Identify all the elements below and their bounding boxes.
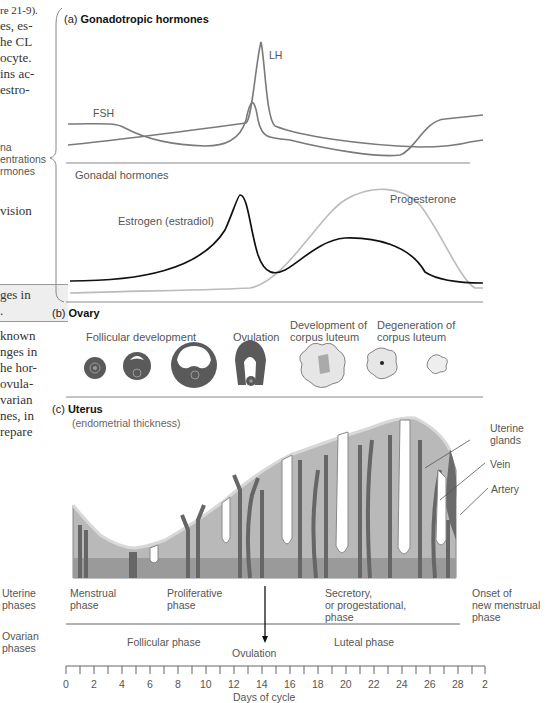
stage-label: corpus luteum — [290, 331, 359, 343]
phase-label: Luteal phase — [334, 636, 394, 648]
phase-label: phase — [70, 599, 99, 611]
tick-label: 8 — [175, 678, 181, 690]
panel-b-heading: (b) Ovary — [52, 307, 100, 319]
tick-label: 2 — [482, 678, 488, 690]
ovulation-icon — [235, 340, 266, 386]
row-label: Ovarian — [2, 630, 39, 642]
tick-label: 0 — [63, 678, 69, 690]
estrogen-curve — [70, 195, 483, 283]
phase-label: new menstrual — [472, 599, 540, 611]
panel-title: Uterus — [68, 403, 103, 415]
tick-label: 4 — [119, 678, 125, 690]
phase-label: phase — [472, 611, 501, 623]
stage-label: Degeneration of — [377, 319, 455, 331]
artery-label: Artery — [491, 483, 519, 495]
tick-label: 2 — [91, 678, 97, 690]
phase-label: Secretory, — [325, 587, 372, 599]
corpus-luteum-icon — [300, 343, 345, 387]
stage-label: Ovulation — [233, 331, 279, 343]
tick-label: 24 — [396, 678, 408, 690]
tick-label: 12 — [228, 678, 240, 690]
progesterone-label: Progesterone — [390, 193, 456, 205]
uterine-glands-label: Uterine — [490, 422, 524, 434]
panel-letter: (b) — [52, 307, 65, 319]
row-label: Uterine — [2, 587, 36, 599]
gonadal-heading: Gonadal hormones — [75, 169, 169, 181]
phase-label: phase — [325, 611, 354, 623]
panel-letter: (a) — [64, 13, 77, 25]
estrogen-label: Estrogen (estradiol) — [118, 215, 214, 227]
primary-follicle-icon — [84, 357, 106, 379]
tick-label: 22 — [368, 678, 380, 690]
panel-title: Gonadotropic hormones — [81, 13, 209, 25]
panel-a-heading: (a) Gonadotropic hormones — [64, 13, 209, 25]
phase-label: phase — [167, 599, 196, 611]
corpus-albicans-icon — [427, 355, 447, 374]
gonadal-chart — [66, 189, 483, 302]
panel-subtitle: (endometrial thickness) — [72, 417, 181, 429]
tick-label: 10 — [200, 678, 212, 690]
tick-label: 28 — [452, 678, 464, 690]
stage-label: Development of — [290, 319, 367, 331]
days-axis — [66, 666, 485, 674]
stage-label: Follicular development — [86, 331, 196, 343]
tick-label: 6 — [147, 678, 153, 690]
mature-follicle-icon — [171, 342, 217, 388]
lh-label: LH — [269, 49, 282, 61]
phase-label: or progestational, — [325, 599, 406, 611]
panel-c-heading: (c) Uterus — [52, 403, 103, 415]
phase-label: Onset of — [472, 587, 512, 599]
uterine-glands-label: glands — [490, 434, 521, 446]
panel-title: Ovary — [69, 307, 100, 319]
ovary-stages — [66, 340, 483, 397]
x-axis-title: Days of cycle — [233, 691, 295, 703]
endometrium-illustration — [73, 418, 488, 578]
fsh-label: FSH — [93, 107, 114, 119]
row-label: phases — [2, 642, 36, 654]
tick-label: 26 — [424, 678, 436, 690]
degenerating-corpus-luteum-icon — [367, 348, 397, 379]
ovulation-label: Ovulation — [232, 647, 276, 659]
tick-label: 20 — [340, 678, 352, 690]
secondary-follicle-icon — [123, 352, 151, 380]
phase-label: Menstrual — [70, 587, 116, 599]
stage-label: corpus luteum — [377, 331, 446, 343]
panel-letter: (c) — [52, 403, 65, 415]
tick-label: 16 — [284, 678, 296, 690]
tick-label: 18 — [312, 678, 324, 690]
phase-label: Follicular phase — [127, 636, 201, 648]
tick-label: 14 — [256, 678, 268, 690]
phase-label: Proliferative — [167, 587, 222, 599]
row-label: phases — [2, 599, 36, 611]
vein-label: Vein — [490, 458, 510, 470]
bracket-icon — [50, 8, 64, 302]
arrow-head-icon — [262, 636, 268, 643]
